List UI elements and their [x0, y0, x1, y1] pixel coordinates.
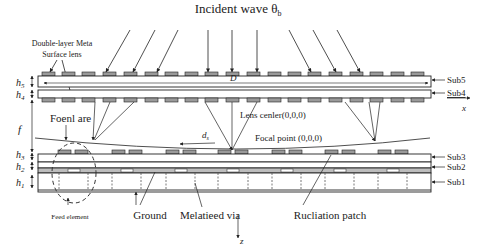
via-label: Melatieed via: [180, 209, 240, 221]
lens-bottom-patches: [42, 98, 424, 102]
ds-label: ds: [202, 130, 210, 141]
sub3-layer: [38, 154, 431, 162]
lens-center-label: Lens cenler(0,0,0): [240, 110, 306, 120]
radiation-patch-label: Rucliation patch: [294, 209, 367, 221]
lens-label-1: Double-layer Meta: [32, 39, 93, 48]
radiation-patches: [58, 150, 408, 154]
lens-pointer: [50, 60, 57, 72]
ground-label: Ground: [133, 209, 167, 221]
focal-arc-label: Foenl are: [50, 112, 91, 124]
sub4-layer: [38, 90, 431, 98]
f-label: f: [18, 123, 23, 135]
sub3-label: Sub3: [447, 152, 466, 162]
D-label: D: [229, 73, 237, 83]
sub2-layer: [38, 162, 431, 168]
sub2-label: Sub2: [447, 162, 466, 172]
lens-label-2: Surface lens: [42, 50, 81, 59]
sub5-label: Sub5: [447, 75, 466, 85]
title: Incident wave θb: [195, 1, 282, 18]
sub1-label: Sub1: [447, 177, 466, 187]
h4-label: h4: [16, 89, 25, 102]
focal-point-label: Focal point (0,0,0): [255, 133, 322, 143]
metasurface-lens-diagram: Incident wave θb Double-layer Meta Surfa…: [0, 0, 479, 246]
converging-rays: [93, 102, 380, 150]
h1-label: h1: [16, 177, 25, 190]
incident-wave-arrows: [106, 30, 360, 72]
h2-label: h2: [16, 161, 25, 174]
feed-element-label: Feed element: [51, 213, 89, 221]
ds-arrow: [180, 143, 215, 144]
sub1-layer: [38, 173, 431, 192]
x-axis-label: x: [461, 103, 466, 113]
z-axis-label: z: [239, 236, 244, 246]
sub4-label: Sub4: [447, 88, 466, 98]
